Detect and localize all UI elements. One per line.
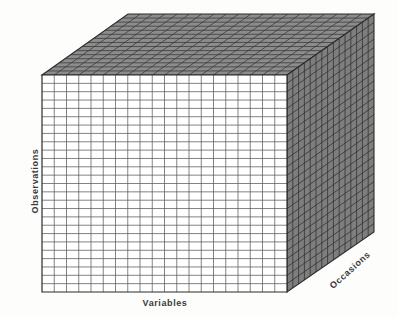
cube-illustration [0, 0, 398, 317]
axis-label-observations: Observations [30, 141, 40, 221]
axis-label-variables: Variables [125, 298, 205, 308]
data-cube-figure: Observations Variables Occasions [0, 0, 398, 317]
cube-front-face [42, 75, 287, 292]
